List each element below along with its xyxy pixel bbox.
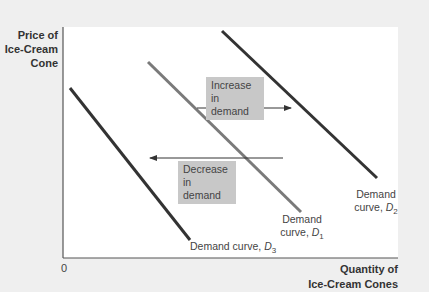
y-axis-title: Price of Ice-Cream Cone bbox=[0, 28, 58, 70]
increase-label-line: Increase bbox=[211, 79, 259, 92]
d1-label-line: Demand bbox=[270, 213, 334, 226]
d2-sub: 2 bbox=[393, 207, 397, 216]
y-title-line: Ice-Cream bbox=[0, 42, 58, 56]
d1-sub: 1 bbox=[319, 232, 323, 241]
d3-label-text: Demand curve, bbox=[190, 240, 264, 252]
x-title-line: Quantity of bbox=[308, 262, 398, 277]
d3-label: Demand curve, D3 bbox=[190, 240, 285, 257]
d3-var: D bbox=[264, 240, 272, 252]
demand-curve-d3 bbox=[70, 88, 190, 240]
d1-label: Demand curve, D1 bbox=[270, 213, 334, 243]
d2-label-line: curve, D2 bbox=[344, 201, 408, 218]
decrease-label-line: in demand bbox=[183, 176, 231, 202]
decrease-label: Decrease in demand bbox=[178, 161, 236, 204]
x-title-line: Ice-Cream Cones bbox=[308, 277, 398, 292]
y-title-line: Cone bbox=[0, 56, 58, 70]
d2-label-text: curve, bbox=[354, 201, 386, 213]
y-title-line: Price of bbox=[0, 28, 58, 42]
x-axis-title: Quantity of Ice-Cream Cones bbox=[308, 262, 398, 292]
origin-label: 0 bbox=[61, 262, 67, 274]
d2-label: Demand curve, D2 bbox=[344, 188, 408, 218]
increase-label: Increase in demand bbox=[206, 77, 264, 120]
increase-label-line: in demand bbox=[211, 92, 259, 118]
d2-label-line: Demand bbox=[344, 188, 408, 201]
decrease-label-line: Decrease bbox=[183, 163, 231, 176]
d3-sub: 3 bbox=[272, 246, 276, 255]
d1-label-text: curve, bbox=[280, 226, 312, 238]
